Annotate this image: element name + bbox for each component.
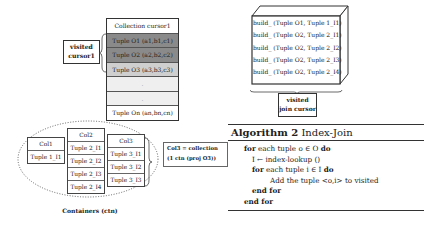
- container-col2: Col2 Tuple 2_I1 Tuple 2_I2 Tuple 2_I3 Tu…: [67, 128, 105, 194]
- col1-header: Col1: [28, 138, 64, 151]
- kw: end for: [244, 197, 273, 206]
- col2-cell: Tuple 2_I2: [68, 155, 104, 168]
- algorithm-number: Algorithm 2: [231, 127, 298, 138]
- algo-line: I ← index-lookup (): [244, 155, 424, 166]
- text: I ← index-lookup (): [252, 155, 320, 164]
- algo-line: end for: [244, 186, 424, 197]
- visited-cursor1-label: visited cursor1: [63, 40, 100, 64]
- text: each tuple o ∈ O: [256, 144, 321, 153]
- algorithm-name: Index-Join: [301, 127, 352, 138]
- join-row: build_ (Tuple O2, Tuple 2_I4): [252, 66, 344, 78]
- visited-join-line2: join cursor: [279, 104, 316, 113]
- visited-label-line1: visited: [64, 42, 99, 51]
- algorithm-box: Algorithm 2 Index-Join for each tuple o …: [228, 124, 424, 211]
- join-cursor-rows: build_ (Tuple O1, Tuple 1_I1) build_ (Tu…: [252, 17, 344, 78]
- algo-line: end for: [244, 197, 424, 208]
- col2-cell: Tuple 2_I1: [68, 142, 104, 155]
- kw: do: [324, 165, 334, 174]
- col2-cell: Tuple 2_I4: [68, 181, 104, 193]
- kw: end for: [252, 186, 281, 195]
- collection-row: .: [107, 77, 178, 92]
- kw: for: [252, 165, 264, 174]
- col3-header: Col3: [108, 135, 144, 148]
- text: each tuple i ∈ I: [264, 165, 324, 174]
- col3-cell: Tuple 3_I3: [108, 174, 144, 186]
- text: Add the tuple <o,i> to visited: [270, 176, 379, 185]
- collection-row: Tuple O3 (a3,b3,c3): [107, 63, 178, 78]
- note-line1: Col3 = collection: [167, 143, 227, 153]
- visited-join-cursor-label: visited join cursor: [278, 93, 317, 117]
- note-line2: (1 ctn (proj O3)): [167, 153, 227, 163]
- join-row: build_ (Tuple O1, Tuple 1_I1): [252, 17, 344, 29]
- collection-row: Tuple O1 (a1,b1,c1): [107, 34, 178, 49]
- visited-label-line2: cursor1: [64, 51, 99, 60]
- join-row: build_ (Tuple O2, Tuple 2_I1): [252, 29, 344, 41]
- container-col3: Col3 Tuple 3_I1 Tuple 3_I2 Tuple 3_I3: [107, 134, 145, 187]
- collection-row: Tuple O2 (a2,b2,c2): [107, 48, 178, 63]
- algorithm-body: for each tuple o ∈ O do I ← index-lookup…: [228, 141, 424, 211]
- col2-header: Col2: [68, 129, 104, 142]
- kw: do: [321, 144, 331, 153]
- containers-caption: Containers (ctn): [40, 207, 140, 214]
- visited-join-line1: visited: [279, 95, 316, 104]
- col3-collection-note: Col3 = collection (1 ctn (proj O3)): [163, 142, 228, 167]
- join-row: build_ (Tuple O2, Tuple 2_I2): [252, 42, 344, 54]
- col3-cell: Tuple 3_I1: [108, 148, 144, 161]
- container-col1: Col1 Tuple 1_I1: [27, 137, 65, 164]
- algo-line: for each tuple o ∈ O do: [244, 144, 424, 155]
- algo-line: Add the tuple <o,i> to visited: [244, 176, 424, 187]
- collection-header: Collection cursor1: [107, 19, 178, 34]
- algorithm-title: Algorithm 2 Index-Join: [228, 125, 424, 141]
- col1-cell: Tuple 1_I1: [28, 151, 64, 163]
- collection-row: .: [107, 92, 178, 107]
- join-row: build_ (Tuple O2, Tuple 2_I3): [252, 54, 344, 66]
- col3-cell: Tuple 3_I2: [108, 161, 144, 174]
- algo-line: for each tuple i ∈ I do: [244, 165, 424, 176]
- kw: for: [244, 144, 256, 153]
- collection-cursor-table: Collection cursor1 Tuple O1 (a1,b1,c1) T…: [106, 18, 179, 121]
- col2-cell: Tuple 2_I3: [68, 168, 104, 181]
